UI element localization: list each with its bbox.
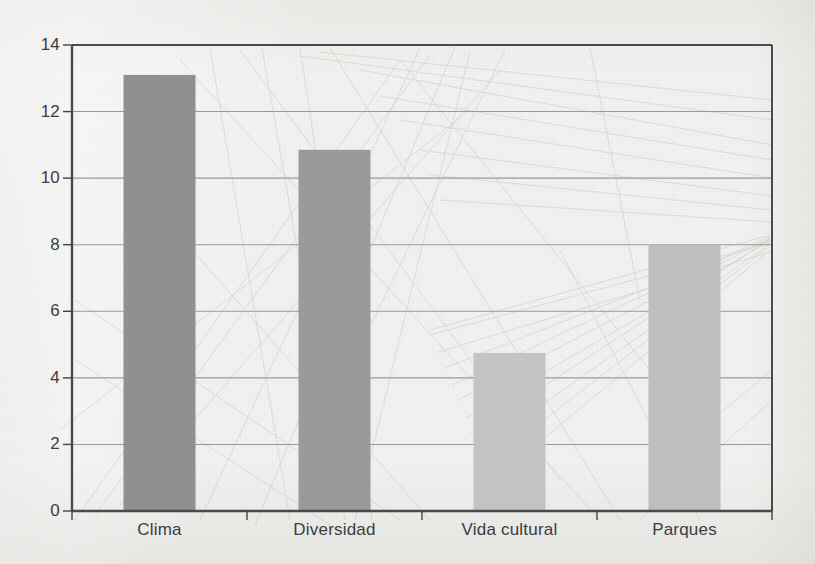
x-tick-label: Clima (137, 520, 181, 540)
x-tick-label: Parques (652, 520, 717, 540)
y-tick-label: 6 (14, 301, 60, 321)
bar-parques (649, 245, 721, 511)
bar-chart-figure: 02468101214 ClimaDiversidadVida cultural… (0, 0, 815, 564)
y-tick-label: 2 (14, 434, 60, 454)
y-tick-label: 4 (14, 368, 60, 388)
y-tick-label: 8 (14, 235, 60, 255)
bar-vida-cultural (474, 353, 546, 511)
x-tick-label: Diversidad (293, 520, 375, 540)
y-tick-label: 12 (14, 102, 60, 122)
bar-clima (124, 75, 196, 511)
y-tick-label: 14 (14, 35, 60, 55)
x-tick-marks (72, 511, 772, 520)
chart-canvas (0, 0, 815, 564)
y-tick-label: 0 (14, 501, 60, 521)
bar-series (124, 75, 721, 511)
y-tick-label: 10 (14, 168, 60, 188)
x-tick-label: Vida cultural (462, 520, 558, 540)
bar-diversidad (299, 150, 371, 511)
y-tick-marks (63, 45, 72, 511)
